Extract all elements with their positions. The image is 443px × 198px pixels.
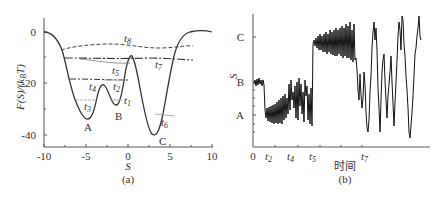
- panel-a-xtick-10: 10: [207, 150, 219, 162]
- label-t2: t2: [113, 80, 120, 94]
- label-t7: t7: [155, 58, 163, 72]
- panel-b-xtick-t5: t5: [309, 150, 316, 164]
- panel-a-xtick-minus5: -5: [81, 150, 91, 162]
- panel-b-ylabel: S: [227, 73, 239, 79]
- label-t1: t1: [124, 94, 131, 108]
- label-t6: t6: [161, 116, 168, 130]
- panel-b-ytick-a: A: [236, 109, 244, 121]
- svg-text:F(S)/(kBT): F(S)/(kBT): [14, 64, 28, 111]
- well-label-c: C: [159, 135, 166, 147]
- panel-a-ytick-0: 0: [31, 26, 37, 38]
- panel-a-xlabel: S: [125, 160, 131, 172]
- label-t5: t5: [112, 64, 119, 78]
- panel-b-xtick-t4: t4: [287, 150, 294, 164]
- label-t8: t8: [124, 32, 131, 46]
- level-t6: [155, 114, 175, 116]
- panel-b-caption: (b): [339, 173, 352, 186]
- well-label-a: A: [84, 121, 92, 133]
- panel-a-chart: 0 -20 -40 -10 -5 0 5 10 S (a) F(S)/(kBT)…: [14, 18, 218, 186]
- panel-b-chart: C B A S 0 t2 t4 t5 t7 时间 (b): [227, 14, 430, 186]
- panel-a-ylabel: F(S)/(kBT): [14, 64, 28, 111]
- panel-a-ytick-minus40: -40: [21, 129, 36, 141]
- panel-b-xtick-0: 0: [250, 150, 256, 162]
- panel-a-xtick-minus10: -10: [37, 150, 52, 162]
- panel-b-xtick-t7: t7: [361, 150, 369, 164]
- well-label-b: B: [115, 110, 122, 122]
- panel-a-caption: (a): [122, 173, 135, 186]
- level-t5: [80, 59, 130, 63]
- label-t3: t3: [84, 100, 91, 114]
- figure: 0 -20 -40 -10 -5 0 5 10 S (a) F(S)/(kBT)…: [0, 0, 443, 198]
- panel-b-xlabel: 时间: [334, 160, 356, 172]
- panel-a-xtick-5: 5: [167, 150, 173, 162]
- trajectory-line: [254, 16, 421, 138]
- panel-b-ytick-c: C: [237, 31, 244, 43]
- label-t4: t4: [89, 80, 96, 94]
- panel-b-xtick-t2: t2: [265, 150, 272, 164]
